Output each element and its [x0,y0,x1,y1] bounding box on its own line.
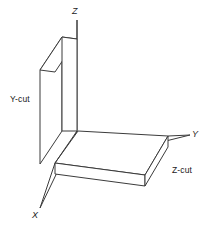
y-axis-label: Y [192,130,198,139]
x-axis-label: X [32,211,38,220]
x-axis-lower-segment [40,163,55,208]
y-cut-right-side-face [62,37,77,131]
y-cut-plate-label: Y-cut [10,95,30,104]
z-axis-label: Z [72,7,78,16]
crystal-cut-diagram: Z Y X Y-cut Z-cut [0,0,209,231]
diagram-canvas [0,0,209,231]
z-cut-plate-label: Z-cut [172,166,192,175]
